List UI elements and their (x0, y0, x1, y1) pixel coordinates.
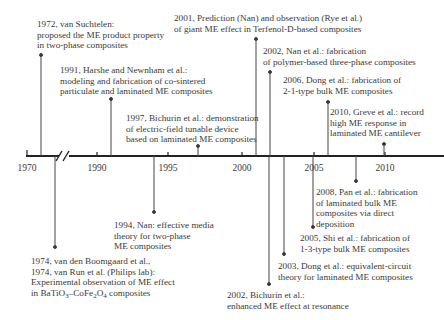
event-2001: 2001, Prediction (Nan) and observation (… (174, 13, 362, 34)
event-2002-bichurin: 2002, Bichurin et al.: enhanced ME effec… (227, 290, 349, 311)
event-2008: 2008, Pan et al.: fabrication of laminat… (316, 187, 418, 229)
event-1972: 1972, van Suchtelen: proposed the ME pro… (37, 19, 164, 51)
timeline-axis (26, 150, 444, 161)
formula-line: in BaTiO3–CoFe2O4 composites (31, 288, 175, 299)
tick-label-1990: 1990 (88, 163, 107, 173)
tick-label-2010: 2010 (376, 163, 395, 173)
event-1974: 1974, van den Boomgaard et al., 1974, va… (31, 256, 175, 298)
timeline-diagram: 1970 1990 1995 2000 2005 2010 1972, van … (0, 0, 444, 320)
tick-label-2000: 2000 (233, 163, 252, 173)
tick-label-1995: 1995 (159, 163, 178, 173)
event-2003: 2003, Dong et al.: equivalent-circuit th… (278, 261, 413, 282)
event-2002-nan: 2002, Nan et al.: fabrication of polymer… (263, 46, 416, 67)
tick-label-1970: 1970 (18, 163, 37, 173)
event-1997: 1997, Bichurin et al.: demonstration of … (126, 113, 259, 145)
event-1994: 1994, Nan: effective media theory for tw… (114, 220, 214, 252)
tick-label-2005: 2005 (305, 163, 324, 173)
event-2010: 2010, Greve et al.: record high ME respo… (330, 107, 424, 139)
event-1991: 1991, Harshe and Newnham et al.: modelin… (60, 65, 213, 97)
event-2006: 2006, Dong et al.: fabrication of 2-1-ty… (283, 75, 401, 96)
event-2005: 2005, Shi et al.: fabrication of 1-3-typ… (300, 233, 410, 254)
